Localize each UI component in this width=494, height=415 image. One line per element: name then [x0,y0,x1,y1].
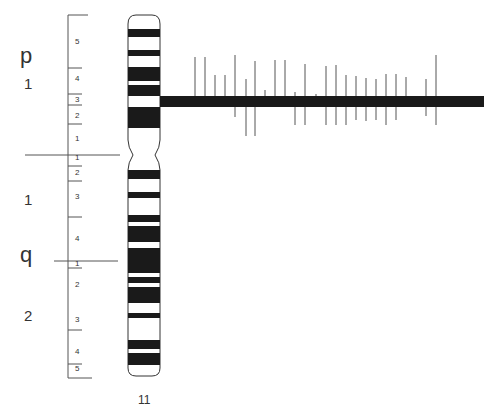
dark-band [128,85,160,96]
dark-band [128,353,160,365]
band-number-label: 4 [75,347,79,356]
arm-label-p: p [20,43,32,69]
dark-band [128,340,160,349]
band-number-label: 2 [75,280,79,289]
dark-band [128,192,160,198]
dark-band [128,107,160,128]
band-number-label: 5 [75,364,79,373]
dark-band [128,170,160,179]
gene-map-bar [160,96,484,107]
chromosome-number-label: 11 [138,393,150,407]
band-number-label: 4 [75,74,79,83]
dark-band [128,313,160,318]
dark-band [128,248,160,273]
band-number-label: 2 [75,111,79,120]
dark-band [128,29,160,37]
dark-band [128,215,160,222]
dark-band [128,67,160,81]
dark-band [128,287,160,303]
region-label: 2 [24,307,32,324]
band-number-label: 2 [75,168,79,177]
region-label: 1 [24,75,32,92]
dark-band [128,50,160,56]
arm-label-q: q [20,242,32,268]
band-number-label: 3 [75,315,79,324]
dark-band [128,226,160,242]
band-number-label: 1 [75,134,79,143]
band-number-label: 1 [75,153,79,162]
band-number-label: 1 [75,259,79,268]
dark-band [128,277,160,283]
region-label: 1 [24,191,32,208]
band-number-label: 5 [75,37,79,46]
band-number-label: 4 [75,234,79,243]
band-number-label: 3 [75,95,79,104]
band-number-label: 3 [75,192,79,201]
